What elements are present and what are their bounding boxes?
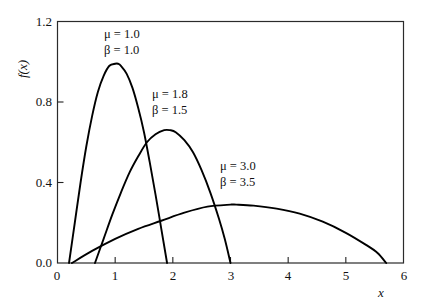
annotation-series-2: μ = 1.8 β = 1.5: [152, 86, 188, 118]
ytick-label-1.2: 1.2: [12, 15, 52, 28]
annotation-series-1: μ = 1.0 β = 1.0: [104, 26, 140, 58]
ytick-label-0.4: 0.4: [12, 176, 52, 189]
xtick-label-3: 3: [219, 269, 243, 282]
annotation-series-2-mu: μ = 1.8: [152, 86, 188, 102]
xtick-label-0: 0: [45, 269, 69, 282]
xtick-label-1: 1: [103, 269, 127, 282]
annotation-series-3-beta: β = 3.5: [220, 174, 256, 190]
x-axis-title: x: [378, 286, 384, 299]
annotation-series-2-beta: β = 1.5: [152, 102, 188, 118]
y-axis-title: f(x): [16, 60, 29, 78]
annotation-series-3: μ = 3.0 β = 3.5: [220, 158, 256, 190]
ytick-label-0.8: 0.8: [12, 95, 52, 108]
xtick-label-6: 6: [392, 269, 416, 282]
ytick-label-0.0: 0.0: [12, 256, 52, 269]
plot-svg: [0, 0, 422, 305]
xtick-label-5: 5: [334, 269, 358, 282]
annotation-series-3-mu: μ = 3.0: [220, 158, 256, 174]
y-axis-ticks: [58, 102, 64, 183]
annotation-series-1-mu: μ = 1.0: [104, 26, 140, 42]
beta-distribution-chart: 1.2 0.8 0.4 0.0 0 1 2 3 4 5 6 f(x) x μ =…: [0, 0, 422, 305]
xtick-label-2: 2: [161, 269, 185, 282]
annotation-series-1-beta: β = 1.0: [104, 42, 140, 58]
xtick-label-4: 4: [276, 269, 300, 282]
